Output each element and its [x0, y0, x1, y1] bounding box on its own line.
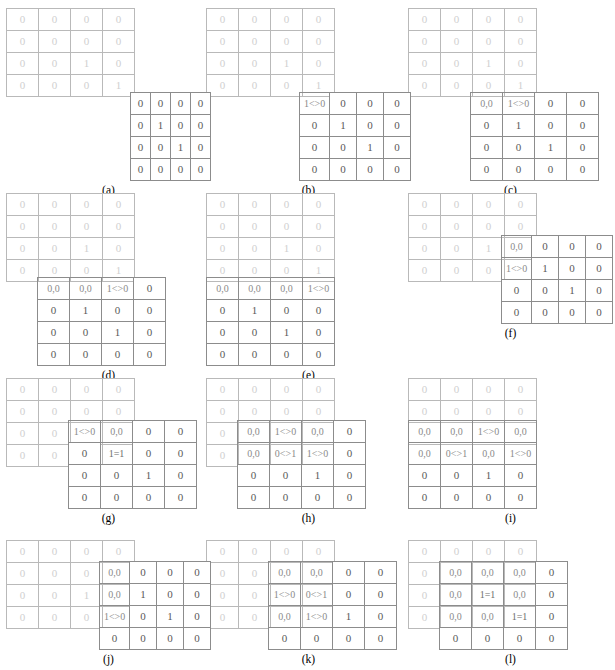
overlap-cell-pair: 0,0 — [239, 278, 271, 300]
reference-cell: 0 — [535, 159, 567, 181]
matrix-row: 0000 — [131, 93, 211, 115]
comparison-label: 0,0 — [110, 426, 123, 437]
matrix-row: 0000 — [409, 31, 537, 53]
comparison-label: 0,0 — [280, 283, 293, 294]
reference-cell: 1 — [503, 115, 535, 137]
reference-cell: 0 — [151, 93, 171, 115]
reference-cell: 0 — [535, 115, 567, 137]
comparison-label: 0,0 — [514, 426, 527, 437]
query-cell: 0 — [505, 31, 537, 53]
query-matrix: 0000000000100001 — [408, 8, 537, 97]
reference-cell: 0 — [303, 300, 335, 322]
reference-cell: 0 — [238, 465, 270, 487]
query-cell: 0 — [39, 216, 71, 238]
query-cell: 0 — [71, 379, 103, 401]
matrix-row: 0,01<>00,00 — [238, 421, 366, 443]
comparison-label: 0,0 — [79, 283, 92, 294]
comparison-label: 1<>0 — [274, 589, 295, 600]
reference-cell: 0 — [184, 562, 211, 584]
query-cell: 0 — [207, 216, 239, 238]
reference-cell: 0 — [535, 93, 567, 115]
query-cell: 0 — [505, 379, 537, 401]
query-cell: 0 — [239, 53, 271, 75]
reference-cell: 0 — [134, 322, 166, 344]
reference-cell: 0 — [157, 584, 184, 606]
query-cell: 0 — [239, 563, 271, 585]
panel-stage: 00000000010000,00000,01001<>00100000 — [6, 540, 211, 670]
overlap-cell-pair: 0,0 — [207, 278, 239, 300]
matrix-row: 0010 — [409, 465, 537, 487]
matrix-row: 0,00,01<>00,0 — [409, 421, 537, 443]
comparison-label: 0,0 — [513, 589, 526, 600]
query-cell: 0 — [271, 31, 303, 53]
reference-cell: 0 — [184, 628, 211, 650]
reference-cell: 0 — [191, 159, 211, 181]
comparison-label: 0,0 — [247, 426, 260, 437]
matrix-row: 0,00,000 — [269, 562, 397, 584]
query-cell: 0 — [207, 194, 239, 216]
overlap-cell-mismatch: 0<>1 — [301, 584, 333, 606]
reference-cell: 0 — [70, 322, 102, 344]
panel-caption-k: (k) — [206, 653, 411, 665]
query-matrix: 0000000000100001 — [6, 193, 135, 282]
query-cell: 1 — [271, 53, 303, 75]
reference-cell: 0 — [69, 465, 101, 487]
query-cell: 0 — [505, 53, 537, 75]
query-cell: 0 — [271, 194, 303, 216]
matrix-row: 0010 — [409, 53, 537, 75]
query-cell: 0 — [303, 541, 335, 563]
reference-cell: 0 — [330, 159, 357, 181]
matrix-row: 0100 — [207, 300, 335, 322]
query-cell: 0 — [207, 401, 239, 423]
query-cell: 0 — [207, 607, 239, 629]
matrix-row: 0000 — [409, 379, 537, 401]
query-cell: 0 — [271, 9, 303, 31]
panel-stage: 00000000,00,00,000,01=10,000,00,01=10000… — [408, 540, 613, 670]
matrix-row: 0000 — [409, 194, 537, 216]
reference-cell: 0 — [157, 562, 184, 584]
overlap-cell-pair: 0,0 — [269, 562, 301, 584]
matrix-row: 0,0000 — [502, 236, 613, 258]
overlap-cell-mismatch: 1<>0 — [300, 93, 330, 115]
reference-cell: 0 — [559, 302, 586, 324]
query-cell: 0 — [239, 607, 271, 629]
reference-cell: 0 — [238, 487, 270, 509]
comparison-label: 1<>0 — [304, 98, 325, 109]
matrix-row: 0010 — [300, 137, 411, 159]
query-cell: 0 — [39, 445, 71, 467]
query-cell: 1 — [473, 53, 505, 75]
panel-stage: 00000000001000010,00,00,01<>001000010000… — [206, 193, 411, 325]
reference-cell: 0 — [357, 115, 384, 137]
comparison-label: 1<>0 — [307, 448, 328, 459]
query-cell: 0 — [7, 238, 39, 260]
matrix-row: 0010 — [207, 322, 335, 344]
reference-cell: 0 — [384, 159, 411, 181]
reference-cell: 0 — [502, 280, 532, 302]
query-cell: 0 — [409, 216, 441, 238]
query-cell: 0 — [239, 541, 271, 563]
reference-cell: 1 — [535, 137, 567, 159]
query-cell: 0 — [409, 53, 441, 75]
reference-cell: 0 — [502, 302, 532, 324]
query-cell: 0 — [271, 379, 303, 401]
query-cell: 0 — [103, 53, 135, 75]
query-cell: 0 — [441, 9, 473, 31]
reference-cell: 1 — [271, 322, 303, 344]
overlap-cell-mismatch: 1<>0 — [270, 421, 302, 443]
reference-cell: 1 — [357, 137, 384, 159]
reference-cell: 0 — [269, 628, 301, 650]
query-cell: 0 — [71, 31, 103, 53]
panel-caption-i: (i) — [408, 512, 613, 524]
query-cell: 0 — [473, 31, 505, 53]
matrix-row: 0000 — [7, 379, 135, 401]
query-cell: 0 — [39, 75, 71, 97]
query-cell: 0 — [409, 563, 441, 585]
matrix-row: 0,00,01=10 — [440, 606, 568, 628]
reference-cell: 0 — [239, 322, 271, 344]
query-cell: 0 — [103, 194, 135, 216]
overlap-cell-match: 1=1 — [472, 584, 504, 606]
query-cell: 0 — [71, 563, 103, 585]
reference-cell: 0 — [301, 628, 333, 650]
matrix-row: 0000 — [207, 31, 335, 53]
overlap-cell-pair: 0,0 — [472, 562, 504, 584]
